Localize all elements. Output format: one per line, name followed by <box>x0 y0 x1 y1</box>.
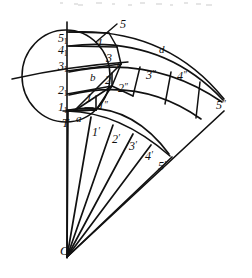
label-3-sub1-subscript: 1 <box>64 65 68 74</box>
label-4-prime2-prime: ″ <box>184 70 188 80</box>
figure-drawing <box>0 0 252 278</box>
label-3-text: 3 <box>106 51 112 65</box>
label-2-sub1: 21 <box>58 84 68 96</box>
label-1-prime: 1′ <box>92 126 100 138</box>
label-4: 4 <box>96 37 102 49</box>
scan-speckle <box>184 2 188 4</box>
label-5-leader: 5 <box>120 18 126 30</box>
scan-speckle <box>140 2 145 4</box>
label-4-prime-text: 4 <box>145 149 151 163</box>
figure-root: OTabcd1121314151123451″2″3″4″5″1′2′3′4′5… <box>0 0 252 278</box>
label-5-prime2-text: 5 <box>216 98 222 112</box>
label-2-prime: 2′ <box>112 133 120 145</box>
label-d: d <box>159 44 165 55</box>
label-c-text: c <box>117 57 122 69</box>
ladder-4 <box>67 46 117 47</box>
label-1-prime2-text: 1 <box>98 99 104 113</box>
label-5-prime: 5′ <box>158 160 166 172</box>
label-5-leader-text: 5 <box>120 17 126 31</box>
label-c: c <box>117 58 122 69</box>
label-1: 1 <box>86 92 92 104</box>
scan-speckle <box>96 2 102 4</box>
label-4-prime2-text: 4 <box>177 69 183 83</box>
ray-3 <box>67 125 113 257</box>
label-4-prime2: 4″ <box>177 70 187 82</box>
label-T-text: T <box>62 116 69 130</box>
label-b: b <box>90 72 96 83</box>
label-5-prime-text: 5 <box>158 159 164 173</box>
cell-7 <box>165 72 171 104</box>
label-3-prime2: 3″ <box>146 69 156 81</box>
label-3-sub1: 31 <box>58 60 68 72</box>
label-5-prime-prime: ′ <box>165 160 167 170</box>
scan-speckle <box>196 3 201 5</box>
label-1-sub1-subscript: 1 <box>64 106 68 115</box>
label-2-text: 2 <box>105 73 111 87</box>
label-2-sub1-subscript: 1 <box>64 89 68 98</box>
label-4-prime: 4′ <box>145 150 153 162</box>
label-2: 2 <box>105 74 111 86</box>
label-4-sub1-subscript: 1 <box>64 49 68 58</box>
label-3-prime2-prime: ″ <box>153 69 157 79</box>
label-2-prime2-prime: ″ <box>125 82 129 92</box>
label-5-prime2: 5″ <box>216 99 226 111</box>
ladder-5 <box>67 32 109 33</box>
ray-1 <box>67 110 68 257</box>
label-a: a <box>76 113 82 124</box>
label-1-prime2: 1″ <box>98 100 108 112</box>
scan-speckle <box>78 4 83 6</box>
label-1-prime-text: 1 <box>92 125 98 139</box>
label-T: T <box>62 117 69 129</box>
label-2-prime-prime: ′ <box>119 133 121 143</box>
scan-speckle <box>60 2 63 4</box>
label-2-prime2-text: 2 <box>118 81 124 95</box>
scan-speckle <box>156 3 162 5</box>
label-5-sub1: 51 <box>58 32 68 44</box>
label-3-prime-text: 3 <box>129 139 135 153</box>
label-4-prime-prime: ′ <box>152 150 154 160</box>
step-chord-d <box>74 110 96 111</box>
label-5-prime2-prime: ″ <box>223 99 227 109</box>
label-5-sub1-subscript: 1 <box>64 37 68 46</box>
scan-speckle <box>112 3 115 5</box>
label-d-text: d <box>159 43 165 55</box>
upper-arc-a <box>69 108 169 154</box>
label-3-prime2-text: 3 <box>146 68 152 82</box>
label-1-prime2-prime: ″ <box>105 100 109 110</box>
scan-speckle <box>206 4 212 6</box>
label-O-text: O <box>60 243 69 258</box>
ray-5 <box>67 145 151 257</box>
label-b-text: b <box>90 71 96 83</box>
label-1-sub1: 11 <box>58 101 68 113</box>
label-3-prime-prime: ′ <box>136 140 138 150</box>
ray-fan <box>67 110 224 257</box>
label-2-prime-text: 2 <box>112 132 118 146</box>
ray-7 <box>67 111 224 257</box>
label-1-text: 1 <box>86 91 92 105</box>
scan-speckle <box>170 4 173 6</box>
label-O: O <box>60 244 69 257</box>
label-3-prime: 3′ <box>129 140 137 152</box>
label-2-prime2: 2″ <box>118 82 128 94</box>
label-3: 3 <box>106 52 112 64</box>
label-a-text: a <box>76 112 82 124</box>
label-1-prime-prime: ′ <box>99 126 101 136</box>
label-4-text: 4 <box>96 36 102 50</box>
scan-speckle <box>128 4 132 6</box>
